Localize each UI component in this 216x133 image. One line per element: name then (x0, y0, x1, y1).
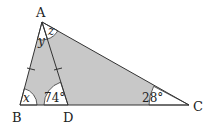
angle-label-74: 74° (44, 91, 65, 105)
vertex-label-b: B (12, 110, 22, 125)
vertex-label-a: A (35, 5, 46, 20)
vertex-label-d: D (63, 110, 73, 125)
triangle-diagram: A B D C x y z 74° 28° (0, 0, 216, 133)
vertex-label-c: C (193, 99, 203, 114)
angle-label-z: z (47, 24, 55, 38)
angle-label-y: y (37, 34, 45, 48)
angle-label-x: x (23, 91, 30, 105)
angle-label-28: 28° (142, 91, 163, 105)
